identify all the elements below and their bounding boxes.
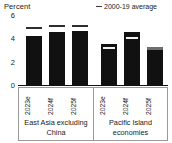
group-label-pacific-island-line1: Pacific Island [109,118,152,127]
bar-slot-g1-c2 [147,16,163,86]
x-tick-label-g0-c1: 2024f [47,98,54,115]
bar-slot-g0-c2 [72,16,88,86]
x-tick-label-g1-c0: 2023e [99,96,106,115]
x-tick-label-g0-c0: 2023e [24,96,31,115]
bar-g0-c1 [49,32,65,86]
bar-slot-g1-c0 [101,16,117,86]
y-tick-6: 6 [11,12,15,20]
group-label-pacific-island: Pacific Island economies [94,118,167,137]
chart-legend: 2000-19 average [96,2,157,11]
bar-g1-c2 [147,49,163,86]
average-marker-g1-c1 [126,37,138,39]
average-marker-g0-c0 [26,27,42,29]
bar-slot-g0-c1 [49,16,65,86]
chart-figure: Percent 2000-19 average 6 4 2 0 [0,0,172,143]
average-marker-g0-c2 [72,25,88,27]
x-axis-line [18,85,168,86]
average-marker-g0-c1 [49,25,65,27]
category-label-box: 2023e 2024f 2025f 2023e 2024f 2025f East… [18,87,168,141]
x-tick-labels: 2023e 2024f 2025f 2023e 2024f 2025f [19,88,167,116]
y-axis-ticks: 6 4 2 0 [0,16,18,86]
plot-area [18,16,168,86]
y-axis-unit-label: Percent [4,2,31,11]
bar-g1-c1 [124,32,140,86]
bar-g1-c0 [101,44,117,86]
bar-group-east-asia [18,16,93,86]
group-label-east-asia: East Asia excluding China [19,118,93,137]
group-label-east-asia-line2: China [46,128,65,137]
bar-slot-g0-c0 [26,16,42,86]
legend-label-average: 2000-19 average [104,2,157,11]
group-label-pacific-island-line2: economies [113,128,148,137]
x-tick-label-g1-c2: 2025f [145,98,152,115]
y-tick-2: 2 [11,59,15,67]
y-tick-4: 4 [11,35,15,43]
bar-slot-g1-c1 [124,16,140,86]
group-label-east-asia-line1: East Asia excluding [24,118,87,127]
x-tick-label-g0-c2: 2025f [70,98,77,115]
group-names: East Asia excluding China Pacific Island… [19,116,167,142]
average-line-marker-icon [96,6,102,8]
bar-group-pacific-island [93,16,168,86]
bar-g0-c2 [72,31,88,86]
average-marker-g1-c2 [147,47,163,50]
average-marker-g1-c0 [103,47,115,49]
x-tick-label-g1-c1: 2024f [122,98,129,115]
bar-g0-c0 [26,36,42,86]
y-tick-0: 0 [11,82,15,90]
